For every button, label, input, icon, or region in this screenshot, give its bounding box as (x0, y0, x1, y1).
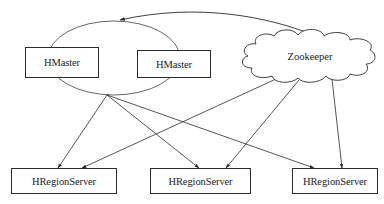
regionserver-node-1-label: HRegionServer (32, 176, 96, 187)
edge-zookeeper-to-regionserver-3 (332, 79, 342, 168)
regionserver-node-1: HRegionServer (11, 168, 117, 194)
hmaster-node-1: HMaster (25, 47, 99, 78)
regionserver-node-3: HRegionServer (292, 168, 378, 194)
edge-hmaster-to-regionserver-3 (107, 95, 314, 168)
hmaster-node-2: HMaster (137, 50, 211, 78)
hmaster-node-1-label: HMaster (44, 57, 80, 68)
hmaster-node-2-label: HMaster (156, 59, 192, 70)
edge-zookeeper-to-regionserver-2 (226, 80, 299, 168)
hbase-architecture-diagram: HMaster HMaster Zookeeper HRegionServer … (0, 0, 384, 204)
edge-zookeeper-to-regionserver-1 (82, 79, 276, 168)
regionserver-node-3-label: HRegionServer (303, 176, 367, 187)
regionserver-node-2: HRegionServer (150, 168, 251, 194)
edge-hmaster-to-regionserver-1 (58, 95, 107, 168)
zookeeper-label: Zookeeper (278, 51, 342, 62)
edge-hmaster-to-regionserver-2 (107, 95, 199, 168)
regionserver-node-2-label: HRegionServer (168, 176, 232, 187)
